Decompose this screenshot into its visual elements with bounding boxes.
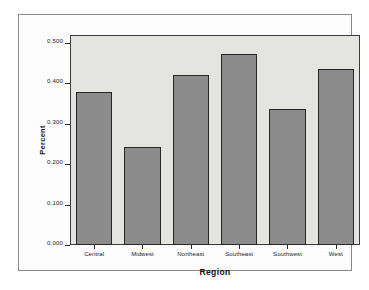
y-axis-tick-label: 0.000 [47, 240, 63, 246]
x-axis-tick-label: Midwest [118, 251, 166, 257]
bar[interactable] [76, 92, 112, 245]
x-axis: CentralMidwestNortheastSoutheastSouthwes… [70, 245, 360, 269]
x-axis-tick-label: Northeast [167, 251, 215, 257]
x-axis-tick-label: Central [70, 251, 118, 257]
bar[interactable] [318, 69, 354, 245]
x-axis-tick-mark [287, 245, 288, 249]
x-axis-tick: West [312, 245, 360, 269]
x-axis-tick-mark [239, 245, 240, 249]
x-axis-tick: Central [70, 245, 118, 269]
y-axis-tick-label: 0.500 [47, 38, 63, 44]
x-axis-tick: Northeast [167, 245, 215, 269]
y-axis-tick-label: 0.200 [47, 159, 63, 165]
x-axis-title: Region [70, 267, 360, 277]
x-axis-tick: Southeast [215, 245, 263, 269]
bar-slot [76, 35, 112, 245]
x-axis-tick-label: Southeast [215, 251, 263, 257]
x-axis-tick: Midwest [118, 245, 166, 269]
y-axis-tick-label: 0.100 [47, 200, 63, 206]
x-axis-tick-label: Southwest [263, 251, 311, 257]
bar-slot [124, 35, 160, 245]
bar-series [70, 35, 360, 245]
chart-frame: 0.0000.1000.2000.3000.4000.500 CentralMi… [18, 14, 352, 271]
bar[interactable] [124, 147, 160, 245]
x-axis-tick-mark [191, 245, 192, 249]
x-axis-tick-mark [336, 245, 337, 249]
x-axis-tick: Southwest [263, 245, 311, 269]
y-axis-tick-label: 0.400 [47, 78, 63, 84]
bar[interactable] [173, 75, 209, 245]
bar[interactable] [221, 54, 257, 245]
bar-slot [173, 35, 209, 245]
x-axis-tick-label: West [312, 251, 360, 257]
x-axis-tick-mark [94, 245, 95, 249]
y-axis-tick-label: 0.300 [47, 119, 63, 125]
bar[interactable] [269, 109, 305, 245]
bar-slot [269, 35, 305, 245]
bar-slot [318, 35, 354, 245]
bar-slot [221, 35, 257, 245]
y-axis-title: Percent [37, 35, 49, 245]
x-axis-tick-mark [142, 245, 143, 249]
